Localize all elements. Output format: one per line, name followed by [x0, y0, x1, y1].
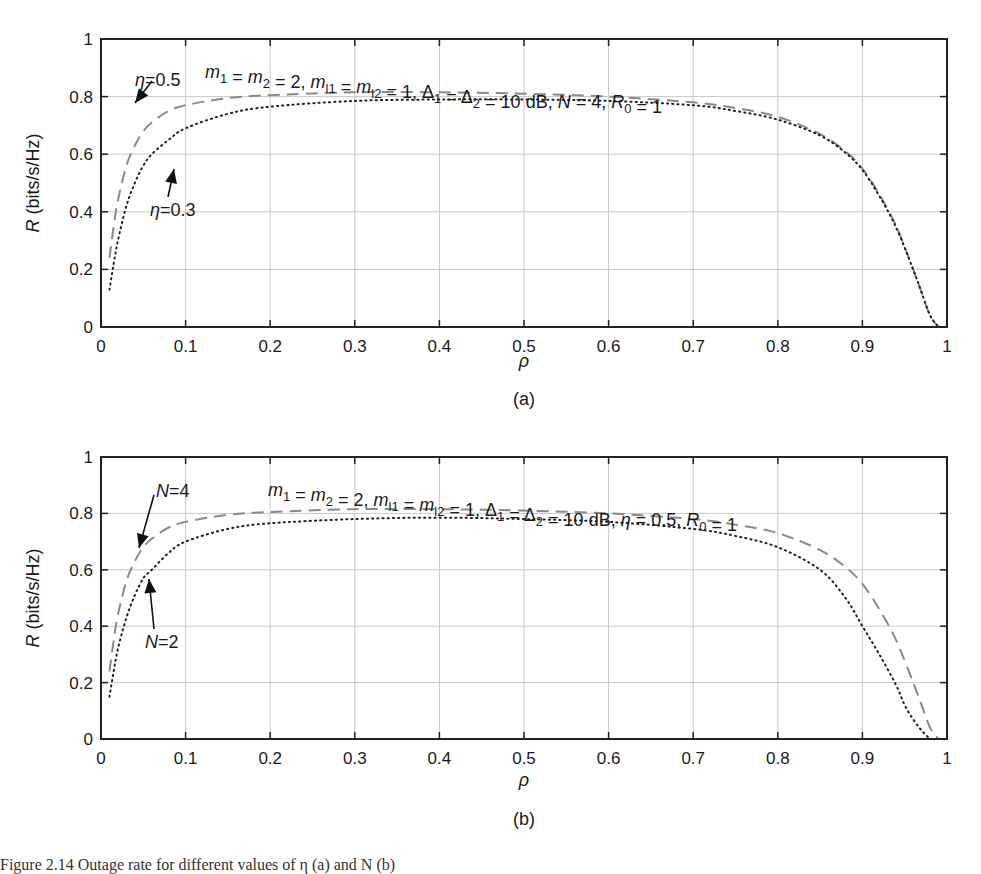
subfigure-label: (a) [513, 389, 535, 409]
x-tick-label: 0.2 [258, 749, 282, 768]
y-tick-label: 0.2 [69, 674, 93, 693]
x-tick-label: 0 [96, 337, 105, 356]
x-tick-label: 0.8 [766, 749, 790, 768]
arrowhead-icon [137, 533, 149, 548]
x-tick-label: 0.9 [851, 337, 875, 356]
x-tick-label: 1 [942, 337, 951, 356]
y-axis-label: R (bits/s/Hz) [23, 133, 43, 232]
y-tick-label: 0.4 [69, 617, 93, 636]
chart-panel-a: 00.10.20.30.40.50.60.70.80.9100.20.40.60… [23, 30, 952, 409]
x-tick-label: 0.8 [766, 337, 790, 356]
y-tick-label: 0 [84, 730, 93, 749]
x-tick-label: 0.4 [428, 749, 452, 768]
subfigure-label: (b) [513, 809, 535, 829]
x-tick-label: 0.7 [681, 749, 705, 768]
annotations-a: m1 = m2 = 2, ml1 = ml2 = 1, Δ1 = Δ2 = 10… [135, 62, 662, 220]
y-tick-label: 0 [84, 318, 93, 337]
chart-panel-b: 00.10.20.30.40.50.60.70.80.9100.20.40.60… [23, 448, 952, 829]
x-tick-label: 0.6 [597, 337, 621, 356]
x-axis-label: ρ [518, 770, 529, 790]
figure-caption: Figure 2.14 Outage rate for different va… [0, 856, 395, 874]
x-tick-label: 0.2 [258, 337, 282, 356]
x-tick-label: 0 [96, 749, 105, 768]
x-axis-label: ρ [518, 351, 529, 371]
series-annotation-label: N=2 [145, 632, 179, 652]
y-axis-label: R (bits/s/Hz) [23, 548, 43, 647]
x-tick-label: 1 [942, 749, 951, 768]
grid-lines-b [101, 457, 947, 739]
x-tick-label: 0.3 [343, 749, 367, 768]
series-annotation-label: η=0.3 [150, 200, 196, 220]
x-tick-label: 0.5 [512, 749, 536, 768]
series-annotation-label: N=4 [156, 481, 190, 501]
x-tick-label: 0.9 [851, 749, 875, 768]
y-tick-label: 0.2 [69, 260, 93, 279]
x-tick-label: 0.1 [174, 749, 198, 768]
series-annotation-label: η=0.5 [135, 70, 181, 90]
series-line [109, 518, 930, 739]
parameter-annotation: m1 = m2 = 2, ml1 = ml2 = 1, Δ1 = Δ2 = 10… [268, 480, 737, 535]
x-tick-label: 0.1 [174, 337, 198, 356]
arrowhead-icon [135, 88, 148, 103]
y-tick-label: 1 [84, 448, 93, 467]
y-tick-label: 0.8 [69, 504, 93, 523]
parameter-annotation: m1 = m2 = 2, ml1 = ml2 = 1, Δ1 = Δ2 = 10… [205, 62, 662, 117]
y-tick-label: 0.6 [69, 561, 93, 580]
y-tick-label: 0.4 [69, 203, 93, 222]
x-tick-label: 0.6 [597, 749, 621, 768]
x-tick-label: 0.3 [343, 337, 367, 356]
x-tick-label: 0.4 [428, 337, 452, 356]
x-tick-label: 0.7 [681, 337, 705, 356]
y-tick-label: 0.6 [69, 145, 93, 164]
y-tick-label: 0.8 [69, 88, 93, 107]
y-tick-label: 1 [84, 30, 93, 49]
arrowhead-icon [144, 579, 156, 594]
arrowhead-icon [165, 169, 177, 184]
